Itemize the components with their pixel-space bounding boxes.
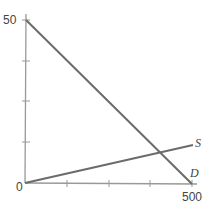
demand-curve	[26, 20, 192, 184]
y-max-label: 50	[3, 13, 16, 27]
origin-label: 0	[16, 180, 23, 194]
x-max-label: 500	[182, 190, 202, 204]
supply-demand-chart: 50 0 500 S D	[0, 0, 212, 209]
y-axis	[25, 14, 26, 183]
supply-curve	[25, 145, 193, 183]
x-axis	[25, 183, 197, 184]
chart-canvas	[0, 0, 212, 209]
demand-label: D	[190, 166, 199, 181]
supply-label: S	[195, 136, 201, 151]
